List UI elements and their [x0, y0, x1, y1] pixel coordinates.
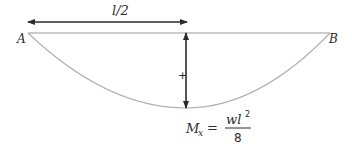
support-label-a: A	[16, 32, 26, 46]
dimension-label: l/2	[112, 3, 129, 18]
formula-numerator: wl	[226, 112, 241, 127]
formula-equals: =	[207, 120, 218, 135]
formula-denominator: 8	[234, 131, 242, 145]
support-label-b: B	[328, 32, 338, 46]
formula-subscript: x	[198, 128, 203, 138]
bending-moment-diagram: l/2 + A B M x = wl 2 8	[0, 0, 352, 149]
moment-formula: M x = wl 2 8	[185, 110, 251, 145]
formula-exponent: 2	[245, 110, 250, 119]
positive-sign: +	[178, 69, 187, 82]
